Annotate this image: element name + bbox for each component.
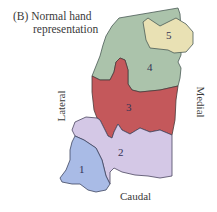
region-4-label: 4 — [147, 61, 153, 73]
hand-representation-map: 1 2 3 4 5 — [0, 0, 217, 212]
caudal-label: Caudal — [120, 190, 151, 202]
region-2-label: 2 — [118, 146, 124, 158]
region-1-label: 1 — [79, 163, 85, 175]
lateral-label: Lateral — [55, 86, 67, 126]
region-5-label: 5 — [166, 29, 172, 41]
region-3-label: 3 — [126, 101, 132, 113]
medial-label: Medial — [195, 82, 207, 122]
